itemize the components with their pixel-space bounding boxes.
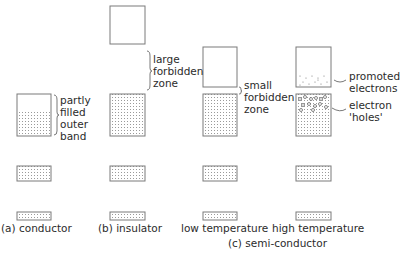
insulator-inner-band bbox=[110, 212, 145, 220]
promoted-electron bbox=[308, 83, 309, 84]
caption-low-temperature: low temperature bbox=[181, 222, 268, 234]
electron-hole bbox=[299, 98, 302, 101]
electron-hole bbox=[325, 106, 328, 109]
small-forbidden-label: small forbidden zone bbox=[244, 79, 294, 115]
caption-conductor: (a) conductor bbox=[1, 222, 72, 234]
label-line: forbidden bbox=[153, 65, 203, 77]
promoted-electron bbox=[320, 83, 321, 84]
conductor-outer-band-filled-part bbox=[17, 112, 51, 136]
high-temperature-column bbox=[296, 47, 346, 220]
electron-hole bbox=[304, 96, 307, 99]
low-temperature-column bbox=[203, 47, 242, 220]
label-line: zone bbox=[244, 103, 294, 115]
holes-arrow bbox=[332, 108, 346, 111]
electron-hole bbox=[320, 98, 323, 101]
label-line: electron bbox=[349, 99, 392, 111]
label-line: promoted bbox=[349, 70, 400, 82]
conductor-middle-band bbox=[17, 166, 51, 181]
promoted-electrons-label: promoted electrons bbox=[349, 70, 400, 94]
promoted-electrons bbox=[299, 75, 327, 85]
caption-insulator: (b) insulator bbox=[98, 222, 162, 234]
electron-hole bbox=[324, 96, 327, 99]
insulator-column bbox=[110, 6, 152, 220]
high-temp-conduction-band bbox=[296, 47, 331, 87]
label-line: partly bbox=[60, 94, 91, 106]
promoted-electron bbox=[311, 75, 312, 76]
insulator-middle-band bbox=[110, 166, 145, 181]
promoted-electron bbox=[299, 75, 300, 76]
low-temp-valence-band bbox=[203, 94, 237, 136]
low-temp-inner-band bbox=[203, 212, 237, 220]
label-line: large bbox=[153, 53, 203, 65]
label-line: band bbox=[60, 130, 91, 142]
electron-hole bbox=[312, 109, 315, 112]
conductor-column bbox=[17, 94, 59, 220]
label-line: outer bbox=[60, 118, 91, 130]
caption-semiconductor: (c) semi-conductor bbox=[228, 237, 327, 249]
promoted-electron bbox=[314, 81, 315, 82]
high-temp-middle-band bbox=[296, 166, 331, 181]
large-forbidden-brace bbox=[147, 51, 152, 90]
conductor-inner-band bbox=[17, 212, 51, 220]
promoted-electron bbox=[317, 77, 318, 78]
label-line: forbidden bbox=[244, 91, 294, 103]
insulator-conduction-band bbox=[110, 6, 145, 44]
promoted-arrow bbox=[334, 80, 346, 82]
large-forbidden-label: large forbidden zone bbox=[153, 53, 203, 89]
electron-hole bbox=[319, 103, 322, 106]
label-line: filled bbox=[60, 106, 91, 118]
electron-hole bbox=[314, 105, 317, 108]
small-forbidden-brace bbox=[239, 87, 242, 94]
electron-hole bbox=[310, 98, 313, 101]
promoted-electron bbox=[326, 81, 327, 82]
label-line: electrons bbox=[349, 82, 400, 94]
partly-filled-label: partly filled outer band bbox=[60, 94, 91, 142]
promoted-electron bbox=[305, 77, 306, 78]
electron-hole bbox=[302, 104, 305, 107]
electron-hole bbox=[308, 103, 311, 106]
partly-filled-brace bbox=[54, 95, 59, 135]
electron-holes-label: electron 'holes' bbox=[349, 99, 392, 123]
promoted-electron bbox=[299, 84, 300, 85]
electron-hole bbox=[300, 109, 303, 112]
insulator-valence-band bbox=[110, 94, 145, 136]
high-temp-inner-band bbox=[296, 212, 331, 220]
promoted-electron bbox=[317, 79, 318, 80]
label-line: 'holes' bbox=[349, 111, 392, 123]
promoted-electron bbox=[302, 81, 303, 82]
caption-high-temperature: high temperature bbox=[272, 222, 364, 234]
label-line: zone bbox=[153, 77, 203, 89]
label-line: small bbox=[244, 79, 294, 91]
low-temp-middle-band bbox=[203, 166, 237, 181]
electron-hole bbox=[315, 97, 318, 100]
promoted-electron bbox=[323, 75, 324, 76]
low-temp-conduction-band bbox=[203, 47, 237, 87]
